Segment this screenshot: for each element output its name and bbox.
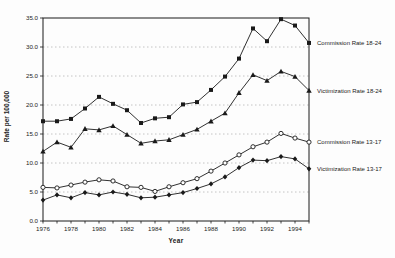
data-point-circle	[265, 140, 269, 144]
data-point-circle	[139, 185, 143, 189]
data-point-triangle	[250, 72, 255, 77]
data-point-triangle	[110, 123, 115, 128]
series-label: Commission Rate 18-24	[317, 40, 382, 46]
data-point-circle	[153, 189, 157, 193]
data-point-square	[279, 17, 283, 21]
data-point-square	[153, 116, 157, 120]
data-point-circle	[237, 153, 241, 157]
x-axis-title: Year	[43, 237, 309, 244]
data-point-diamond	[237, 165, 242, 170]
data-point-diamond	[83, 190, 88, 195]
data-point-diamond	[41, 198, 46, 203]
plot-border	[43, 18, 309, 221]
data-point-square	[195, 100, 199, 104]
data-point-square	[139, 121, 143, 125]
data-point-square	[97, 95, 101, 99]
y-tick-label: 35.0	[26, 14, 39, 21]
data-point-triangle	[124, 132, 129, 137]
data-point-triangle	[40, 149, 45, 154]
y-tick-label: 15.0	[26, 130, 39, 137]
data-point-square	[167, 115, 171, 119]
data-point-circle	[111, 179, 115, 183]
data-point-circle	[97, 178, 101, 182]
x-tick-label: 1980	[92, 225, 106, 232]
data-point-triangle	[264, 78, 269, 83]
data-point-square	[125, 108, 129, 112]
data-point-diamond	[97, 192, 102, 197]
data-point-square	[251, 26, 255, 30]
y-tick-label: 0.0	[29, 217, 38, 224]
y-tick-label: 10.0	[26, 159, 39, 166]
data-point-diamond	[265, 158, 270, 163]
chart-canvas: 0.05.010.015.020.025.030.035.01976197819…	[0, 0, 395, 258]
data-point-circle	[83, 180, 87, 184]
data-point-circle	[223, 161, 227, 165]
data-point-circle	[279, 131, 283, 135]
data-point-diamond	[251, 158, 256, 163]
data-point-circle	[195, 177, 199, 181]
data-point-triangle	[278, 69, 283, 74]
x-tick-label: 1976	[36, 225, 50, 232]
data-point-diamond	[181, 190, 186, 195]
y-tick-label: 5.0	[29, 188, 38, 195]
data-point-diamond	[279, 154, 284, 159]
data-point-square	[69, 117, 73, 121]
y-tick-label: 20.0	[26, 101, 39, 108]
data-point-circle	[293, 136, 297, 140]
data-point-diamond	[293, 156, 298, 161]
data-point-triangle	[54, 139, 59, 144]
data-point-triangle	[222, 110, 227, 115]
data-point-square	[55, 119, 59, 123]
data-point-square	[209, 88, 213, 92]
x-tick-label: 1994	[288, 225, 302, 232]
data-point-circle	[69, 183, 73, 187]
data-point-triangle	[208, 119, 213, 124]
data-point-circle	[41, 185, 45, 189]
series-label: Victimization Rate 18-24	[317, 88, 383, 94]
data-point-circle	[125, 185, 129, 189]
data-point-circle	[167, 185, 171, 189]
data-point-square	[293, 24, 297, 28]
series-label: Commission Rate 13-17	[317, 139, 382, 145]
data-point-diamond	[167, 192, 172, 197]
data-point-square	[237, 57, 241, 61]
data-point-diamond	[139, 195, 144, 200]
data-point-diamond	[153, 195, 158, 200]
y-tick-label: 25.0	[26, 72, 39, 79]
x-tick-label: 1978	[64, 225, 78, 232]
data-point-circle	[251, 145, 255, 149]
data-point-diamond	[55, 192, 60, 197]
x-tick-label: 1988	[204, 225, 218, 232]
data-point-diamond	[111, 189, 116, 194]
x-tick-label: 1990	[232, 225, 246, 232]
data-point-square	[265, 39, 269, 43]
y-tick-label: 30.0	[26, 43, 39, 50]
data-point-square	[223, 75, 227, 79]
data-point-diamond	[209, 181, 214, 186]
series-line-1	[43, 19, 309, 123]
series-label: Victimization Rate 13-17	[317, 166, 383, 172]
data-point-square	[83, 106, 87, 110]
x-tick-label: 1986	[176, 225, 190, 232]
x-tick-label: 1984	[148, 225, 162, 232]
data-point-diamond	[69, 195, 74, 200]
data-point-circle	[181, 181, 185, 185]
data-point-square	[41, 119, 45, 123]
data-point-circle	[307, 140, 311, 144]
data-point-triangle	[194, 127, 199, 132]
line-chart: 0.05.010.015.020.025.030.035.01976197819…	[0, 0, 395, 258]
data-point-circle	[55, 186, 59, 190]
x-tick-label: 1992	[260, 225, 274, 232]
data-point-diamond	[223, 174, 228, 179]
y-axis-title: Rate per 100,000	[3, 57, 10, 177]
data-point-square	[111, 102, 115, 106]
data-point-circle	[209, 169, 213, 173]
x-tick-label: 1982	[120, 225, 134, 232]
data-point-diamond	[195, 186, 200, 191]
data-point-diamond	[307, 166, 312, 171]
data-point-square	[181, 102, 185, 106]
data-point-square	[307, 41, 311, 45]
data-point-diamond	[125, 192, 130, 197]
